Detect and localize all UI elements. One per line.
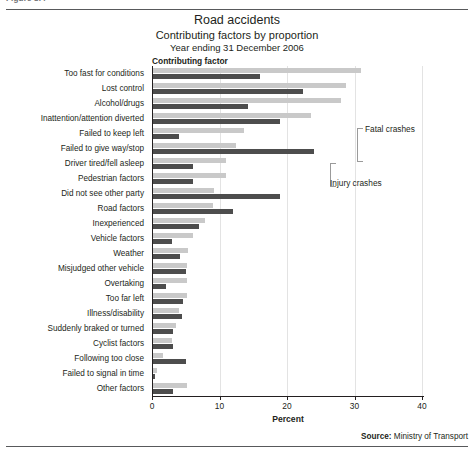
bar-injury bbox=[152, 149, 314, 154]
bar-fatal bbox=[152, 293, 187, 298]
category-label: Inattention/attention diverted bbox=[41, 114, 144, 123]
fatal-crashes-bracket bbox=[357, 128, 363, 162]
bar-injury bbox=[152, 344, 173, 349]
category-label: Too fast for conditions bbox=[64, 69, 144, 78]
x-tick-label: 40 bbox=[417, 401, 426, 411]
bar-injury bbox=[152, 209, 233, 214]
source-note: Source: Ministry of Transport bbox=[361, 432, 468, 441]
category-label: Weather bbox=[113, 249, 144, 258]
bottom-divider bbox=[6, 446, 468, 447]
bar-chart: Contributing factor 010203040 Percent To… bbox=[0, 0, 474, 454]
category-label: Overtaking bbox=[104, 279, 144, 288]
injury-crashes-annotation: Injury crashes bbox=[330, 178, 382, 188]
bar-injury bbox=[152, 74, 260, 79]
bar-injury bbox=[152, 239, 172, 244]
x-tick bbox=[152, 396, 153, 400]
x-tick-label: 30 bbox=[350, 401, 359, 411]
category-label: Road factors bbox=[98, 204, 144, 213]
bar-fatal bbox=[152, 173, 226, 178]
bar-injury bbox=[152, 89, 303, 94]
x-tick bbox=[355, 396, 356, 400]
category-label: Driver tired/fell asleep bbox=[65, 159, 144, 168]
bar-fatal bbox=[152, 248, 188, 253]
source-value: Ministry of Transport bbox=[394, 432, 468, 441]
category-label: Following too close bbox=[74, 354, 144, 363]
category-label: Illness/disability bbox=[87, 309, 144, 318]
category-label: Alcohol/drugs bbox=[94, 99, 144, 108]
category-label: Failed to signal in time bbox=[63, 369, 144, 378]
bar-fatal bbox=[152, 128, 244, 133]
plot-area bbox=[152, 66, 422, 396]
bar-injury bbox=[152, 119, 280, 124]
category-label: Failed to give way/stop bbox=[61, 144, 144, 153]
gridline bbox=[422, 66, 423, 396]
bar-injury bbox=[152, 179, 193, 184]
bar-fatal bbox=[152, 68, 361, 73]
bar-injury bbox=[152, 314, 182, 319]
x-tick bbox=[220, 396, 221, 400]
x-tick-label: 0 bbox=[150, 401, 155, 411]
bar-fatal bbox=[152, 323, 176, 328]
bar-fatal bbox=[152, 113, 311, 118]
bar-fatal bbox=[152, 263, 187, 268]
category-label: Inexperienced bbox=[93, 219, 144, 228]
bar-injury bbox=[152, 224, 199, 229]
x-tick-label: 10 bbox=[215, 401, 224, 411]
bar-fatal bbox=[152, 338, 172, 343]
bar-fatal bbox=[152, 383, 187, 388]
bar-injury bbox=[152, 329, 173, 334]
bar-injury bbox=[152, 254, 180, 259]
bar-fatal bbox=[152, 188, 214, 193]
y-axis-title: Contributing factor bbox=[152, 56, 228, 66]
x-tick-label: 20 bbox=[282, 401, 291, 411]
x-axis-line bbox=[152, 396, 424, 397]
bar-fatal bbox=[152, 143, 236, 148]
bar-fatal bbox=[152, 353, 163, 358]
fatal-crashes-annotation: Fatal crashes bbox=[365, 124, 415, 134]
bar-injury bbox=[152, 389, 173, 394]
bar-injury bbox=[152, 134, 179, 139]
bar-injury bbox=[152, 194, 280, 199]
category-label: Suddenly braked or turned bbox=[48, 324, 145, 333]
bar-fatal bbox=[152, 203, 213, 208]
bar-injury bbox=[152, 299, 183, 304]
y-axis-line bbox=[152, 66, 153, 396]
category-label: Cyclist factors bbox=[93, 339, 144, 348]
category-label: Pedestrian factors bbox=[78, 174, 144, 183]
y-axis-category-labels: Too fast for conditionsLost controlAlcoh… bbox=[0, 66, 148, 396]
bar-fatal bbox=[152, 218, 205, 223]
bar-injury bbox=[152, 284, 166, 289]
category-label: Vehicle factors bbox=[91, 234, 144, 243]
x-tick bbox=[287, 396, 288, 400]
bar-fatal bbox=[152, 278, 187, 283]
bar-fatal bbox=[152, 83, 346, 88]
bar-injury bbox=[152, 269, 186, 274]
category-label: Other factors bbox=[97, 384, 144, 393]
category-label: Too far left bbox=[106, 294, 144, 303]
bar-injury bbox=[152, 164, 193, 169]
bar-fatal bbox=[152, 158, 226, 163]
gridline bbox=[355, 66, 356, 396]
bar-fatal bbox=[152, 308, 179, 313]
source-label: Source: bbox=[361, 432, 391, 441]
x-axis-title: Percent bbox=[152, 414, 424, 424]
bar-injury bbox=[152, 359, 186, 364]
bar-fatal bbox=[152, 233, 193, 238]
category-label: Lost control bbox=[102, 84, 144, 93]
x-tick bbox=[422, 396, 423, 400]
category-label: Misjudged other vehicle bbox=[58, 264, 144, 273]
bar-injury bbox=[152, 104, 248, 109]
bar-fatal bbox=[152, 98, 341, 103]
category-label: Did not see other party bbox=[61, 189, 144, 198]
category-label: Failed to keep left bbox=[79, 129, 144, 138]
